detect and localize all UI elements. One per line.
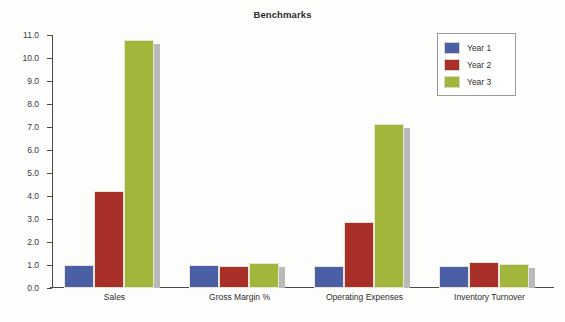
legend-swatch-icon — [444, 42, 460, 54]
bar-rect[interactable] — [249, 263, 279, 288]
bar-group-bars — [177, 35, 302, 288]
bar-rect[interactable] — [344, 222, 374, 288]
y-axis-tick: 0.0 — [47, 288, 52, 289]
y-axis-tick-label: 11.0 — [23, 30, 39, 40]
legend-item[interactable]: Year 2 — [444, 56, 509, 73]
y-axis-tick-label: 0.0 — [27, 283, 39, 293]
y-axis-tick-label: 6.0 — [27, 145, 39, 155]
y-axis-tick-label: 5.0 — [27, 168, 39, 178]
x-axis-category-label: Inventory Turnover — [427, 292, 552, 302]
bar-group-bars — [52, 35, 177, 288]
bar-rect[interactable] — [124, 40, 154, 288]
chart-legend: Year 1Year 2Year 3 — [437, 33, 516, 96]
bar-rect[interactable] — [499, 264, 529, 288]
bar-rect[interactable] — [64, 265, 94, 288]
legend-item[interactable]: Year 3 — [444, 73, 509, 90]
y-axis-tick-label: 7.0 — [27, 122, 39, 132]
bar-shadow — [403, 128, 410, 288]
bar-group-bars — [302, 35, 427, 288]
legend-label: Year 1 — [467, 43, 491, 53]
bar-rect[interactable] — [219, 266, 249, 288]
x-axis-category-label: Operating Expenses — [302, 292, 427, 302]
bar-rect[interactable] — [189, 265, 219, 288]
y-axis-tick-label: 2.0 — [27, 237, 39, 247]
y-axis-tick-label: 9.0 — [27, 76, 39, 86]
y-axis-tick-label: 1.0 — [27, 260, 39, 270]
bar-group: Operating Expenses — [302, 35, 427, 288]
legend-swatch-icon — [444, 76, 460, 88]
legend-item[interactable]: Year 1 — [444, 39, 509, 56]
chart-container: Benchmarks 0.01.02.03.04.05.06.07.08.09.… — [0, 0, 565, 322]
x-axis-category-label: Sales — [52, 292, 177, 302]
bar-rect[interactable] — [469, 262, 499, 288]
bar-rect[interactable] — [94, 191, 124, 288]
y-axis-tick-label: 10.0 — [22, 53, 39, 63]
y-axis-tick-label: 8.0 — [27, 99, 39, 109]
bar-shadow — [528, 268, 535, 288]
legend-label: Year 2 — [467, 60, 491, 70]
bar-group: Sales — [52, 35, 177, 288]
y-axis-tick-label: 4.0 — [27, 191, 39, 201]
bar-rect[interactable] — [314, 266, 344, 288]
y-axis-tick-label: 3.0 — [27, 214, 39, 224]
bar-shadow — [153, 44, 160, 288]
bar-shadow — [278, 267, 285, 288]
x-axis-category-label: Gross Margin % — [177, 292, 302, 302]
bar-rect[interactable] — [374, 124, 404, 288]
legend-swatch-icon — [444, 59, 460, 71]
bar-group: Gross Margin % — [177, 35, 302, 288]
bar-rect[interactable] — [439, 266, 469, 288]
legend-label: Year 3 — [467, 77, 491, 87]
chart-title: Benchmarks — [0, 9, 565, 20]
